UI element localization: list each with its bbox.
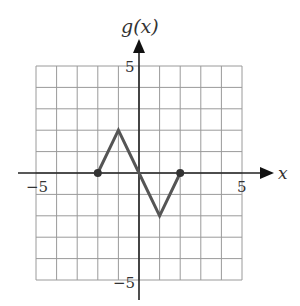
x-axis-label: x bbox=[278, 163, 288, 183]
x-tick-label-neg5: −5 bbox=[26, 178, 48, 196]
x-axis-arrow-icon bbox=[260, 167, 274, 179]
y-axis-arrow-icon bbox=[133, 39, 145, 53]
y-tick-label-5: 5 bbox=[125, 58, 135, 76]
closed-endpoint-dot bbox=[176, 169, 184, 177]
y-axis-label: g(x) bbox=[121, 15, 159, 37]
y-tick-label-neg5: −5 bbox=[113, 274, 135, 292]
x-tick-label-5: 5 bbox=[237, 178, 247, 196]
closed-endpoint-dot bbox=[94, 169, 102, 177]
function-graph: x g(x) −5 5 5 −5 bbox=[0, 0, 300, 306]
